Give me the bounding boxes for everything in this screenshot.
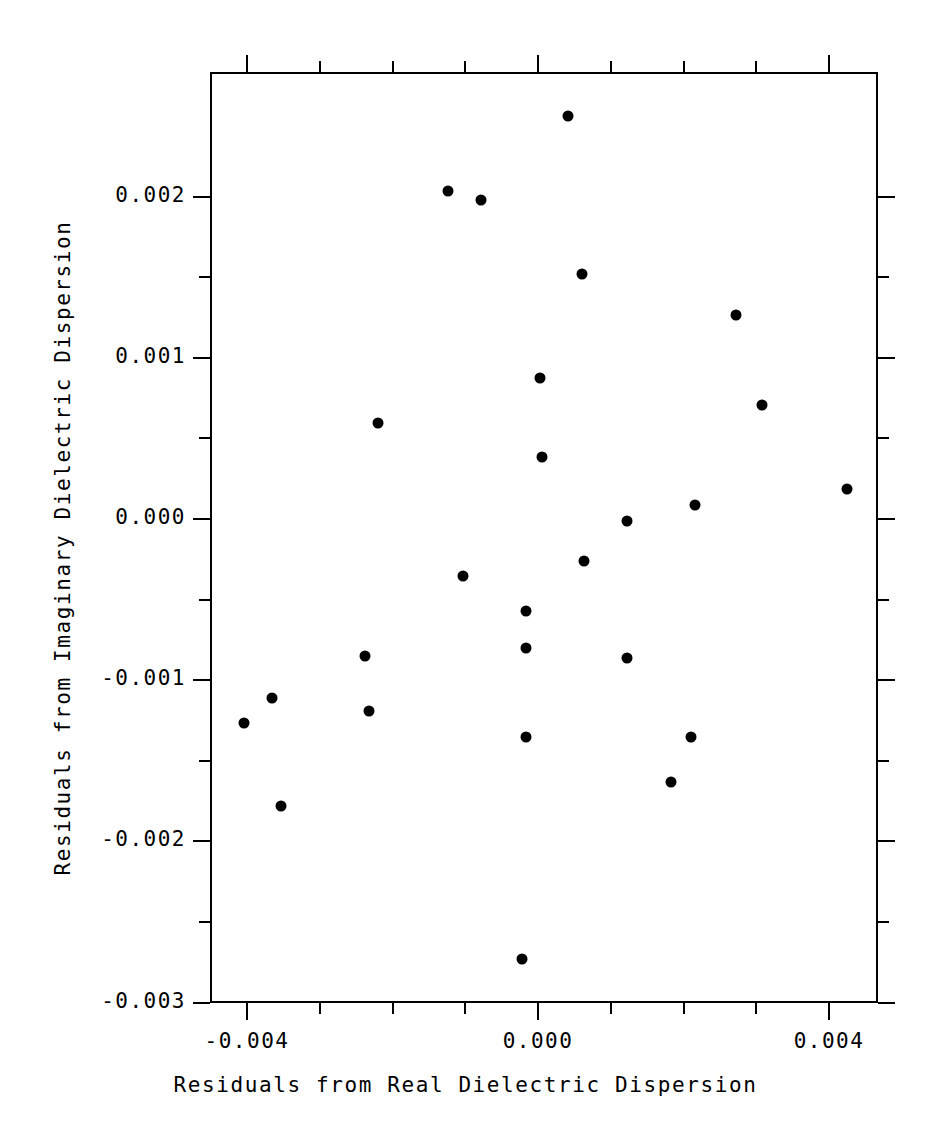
x-axis-tick xyxy=(828,1003,830,1020)
y-axis-tick-right xyxy=(878,276,889,278)
data-point xyxy=(372,417,383,428)
y-axis-tick xyxy=(199,599,210,601)
data-point xyxy=(622,653,633,664)
y-axis-tick xyxy=(193,1002,210,1004)
y-tick-label: -0.002 xyxy=(0,827,186,851)
data-point xyxy=(266,693,277,704)
y-axis-tick-right xyxy=(878,357,895,359)
data-point xyxy=(364,706,375,717)
y-axis-tick xyxy=(199,437,210,439)
x-tick-label: 0.000 xyxy=(468,1029,608,1053)
y-axis-tick-right xyxy=(878,921,889,923)
data-point xyxy=(730,309,741,320)
y-axis-tick-right xyxy=(878,437,889,439)
data-point xyxy=(578,556,589,567)
y-axis-tick-right xyxy=(878,599,889,601)
x-tick-label: 0.004 xyxy=(759,1029,899,1053)
x-axis-tick xyxy=(683,1003,685,1014)
x-axis-tick xyxy=(755,1003,757,1014)
data-point xyxy=(686,732,697,743)
y-tick-label: -0.003 xyxy=(0,989,186,1013)
y-axis-tick xyxy=(193,840,210,842)
data-point xyxy=(521,643,532,654)
x-axis-tick xyxy=(610,1003,612,1014)
data-point xyxy=(756,399,767,410)
y-tick-label: 0.001 xyxy=(0,344,186,368)
y-axis-tick xyxy=(199,921,210,923)
x-axis-tick-top xyxy=(537,55,539,72)
x-axis-tick-top xyxy=(464,61,466,72)
data-point xyxy=(457,570,468,581)
plot-frame xyxy=(210,72,878,1003)
y-axis-tick-right xyxy=(878,196,895,198)
y-axis-tick-right xyxy=(878,679,895,681)
data-point xyxy=(535,372,546,383)
y-axis-tick xyxy=(193,679,210,681)
y-axis-title: Residuals from Imaginary Dielectric Disp… xyxy=(51,153,75,943)
data-point xyxy=(276,801,287,812)
y-axis-tick xyxy=(193,518,210,520)
data-point xyxy=(622,516,633,527)
x-axis-tick xyxy=(392,1003,394,1014)
x-axis-tick-top xyxy=(392,61,394,72)
x-axis-tick-top xyxy=(683,61,685,72)
data-point xyxy=(521,606,532,617)
y-axis-tick xyxy=(199,276,210,278)
x-axis-tick xyxy=(246,1003,248,1020)
data-point xyxy=(516,954,527,965)
data-point xyxy=(842,483,853,494)
x-axis-tick-top xyxy=(828,55,830,72)
x-axis-tick-top xyxy=(755,61,757,72)
y-axis-tick-right xyxy=(878,518,895,520)
x-axis-tick xyxy=(464,1003,466,1014)
y-axis-tick-right xyxy=(878,760,889,762)
data-point xyxy=(443,185,454,196)
x-axis-tick xyxy=(319,1003,321,1014)
data-point xyxy=(537,451,548,462)
data-point xyxy=(665,777,676,788)
x-axis-tick-top xyxy=(246,55,248,72)
y-tick-label: 0.000 xyxy=(0,505,186,529)
data-point xyxy=(562,111,573,122)
data-point xyxy=(521,732,532,743)
x-axis-tick xyxy=(537,1003,539,1020)
x-axis-title: Residuals from Real Dielectric Dispersio… xyxy=(0,1073,931,1097)
data-point xyxy=(238,717,249,728)
y-axis-tick-right xyxy=(878,1002,895,1004)
x-tick-label: -0.004 xyxy=(177,1029,317,1053)
scatter-plot-figure: -0.0040.0000.0040.0020.0010.000-0.001-0.… xyxy=(0,0,931,1140)
data-point xyxy=(689,499,700,510)
y-axis-tick-right xyxy=(878,840,895,842)
y-axis-tick xyxy=(193,357,210,359)
y-axis-tick xyxy=(199,760,210,762)
data-point xyxy=(360,651,371,662)
y-axis-tick xyxy=(193,196,210,198)
x-axis-tick-top xyxy=(319,61,321,72)
x-axis-tick-top xyxy=(610,61,612,72)
y-tick-label: 0.002 xyxy=(0,183,186,207)
data-point xyxy=(577,269,588,280)
data-point xyxy=(476,195,487,206)
y-tick-label: -0.001 xyxy=(0,666,186,690)
